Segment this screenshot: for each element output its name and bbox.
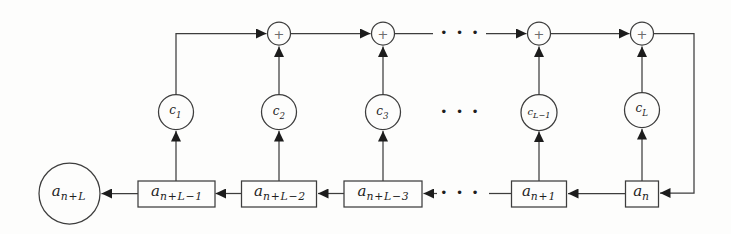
adder-3-plus-sign: +	[534, 28, 545, 41]
multiplier-label-c3: c3	[376, 105, 389, 120]
register-label-an-l-3: an+L−3	[357, 184, 409, 203]
register-label-an-l-2: an+L−2	[254, 184, 306, 203]
ellipsis-bottom-row: ···	[441, 183, 488, 202]
output-node-label: an+L	[52, 184, 87, 203]
register-label-an: an	[633, 183, 650, 202]
ellipsis-middle-row: ···	[441, 102, 488, 121]
multiplier-label-c1: c1	[169, 104, 182, 119]
ellipsis-top-row: ···	[441, 23, 488, 42]
multiplier-label-c2: c2	[273, 105, 286, 120]
register-label-an-1: an+1	[522, 184, 556, 203]
multiplier-label-cl1: cL−1	[527, 107, 550, 119]
lfsr-diagram: an+L an+L−1 an+L−2 an+L−3 an+1 an c1 c2 …	[0, 0, 731, 234]
adder-1-plus-sign: +	[274, 28, 285, 41]
adder-4-plus-sign: +	[637, 28, 648, 41]
arrow-c1-to-adder1	[176, 34, 267, 95]
multiplier-label-cl: cL	[636, 102, 649, 117]
adder-2-plus-sign: +	[378, 28, 389, 41]
register-label-an-l-1: an+L−1	[151, 184, 203, 203]
